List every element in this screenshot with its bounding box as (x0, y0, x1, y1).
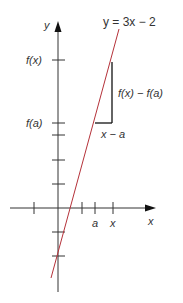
y-axis-arrow-icon (55, 21, 62, 32)
x-axis-label: x (147, 215, 154, 227)
y-axis-label: y (43, 19, 51, 31)
a-tick-label: a (92, 217, 98, 229)
rise-label: f(x) − f(a) (118, 87, 163, 99)
x-tick-label: x (109, 217, 116, 229)
fa-tick-label: f(a) (26, 117, 43, 129)
x-axis-arrow-icon (145, 205, 156, 212)
run-label: x − a (100, 128, 125, 140)
slope-diagram: y = 3x − 2 y x f(x) f(a) a x f(x) − f(a)… (0, 0, 183, 303)
function-line (51, 29, 119, 278)
fx-tick-label: f(x) (26, 54, 42, 66)
equation-label: y = 3x − 2 (103, 15, 156, 29)
